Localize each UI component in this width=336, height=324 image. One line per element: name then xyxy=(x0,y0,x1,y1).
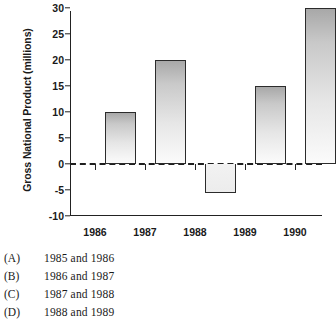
x-tick-mark xyxy=(145,164,146,170)
x-tick-label: 1987 xyxy=(133,226,156,238)
bar-1987 xyxy=(155,60,186,164)
y-tick-mark xyxy=(65,33,70,34)
x-tick-mark xyxy=(195,164,196,170)
answer-option[interactable]: (A)1985 and 1986 xyxy=(0,252,336,270)
y-tick-mark xyxy=(65,59,70,60)
answer-option[interactable]: (D)1988 and 1989 xyxy=(0,306,336,324)
x-axis-line xyxy=(70,215,322,216)
answer-letter: (B) xyxy=(0,270,44,282)
y-tick-label: 15 xyxy=(52,80,64,92)
answer-letter: (C) xyxy=(0,288,44,300)
y-tick-label: 25 xyxy=(52,28,64,40)
x-tick-label: 1986 xyxy=(83,226,106,238)
x-tick-label: 1990 xyxy=(283,226,306,238)
answer-option[interactable]: (C)1987 and 1988 xyxy=(0,288,336,306)
y-tick-label: 0 xyxy=(58,158,64,170)
answer-letter: (A) xyxy=(0,252,44,264)
y-tick-label: 5 xyxy=(58,132,64,144)
plot-area: 302520151050-5-10 19861987198819891990 xyxy=(70,8,320,216)
y-tick-mark xyxy=(65,189,70,190)
y-tick-mark xyxy=(65,137,70,138)
answer-text: 1986 and 1987 xyxy=(44,270,114,282)
y-tick-mark xyxy=(65,111,70,112)
x-tick-label: 1989 xyxy=(233,226,256,238)
bar-1989 xyxy=(255,86,286,164)
y-tick-mark xyxy=(65,85,70,86)
bar-1986 xyxy=(105,112,136,164)
answer-choices: (A)1985 and 1986(B)1986 and 1987(C)1987 … xyxy=(0,252,336,324)
answer-letter: (D) xyxy=(0,306,44,318)
y-tick-label: 10 xyxy=(52,106,64,118)
y-tick-label: 30 xyxy=(52,2,64,14)
y-axis-line xyxy=(70,11,71,216)
x-tick-mark xyxy=(295,164,296,170)
x-tick-mark xyxy=(245,164,246,170)
answer-option[interactable]: (B)1986 and 1987 xyxy=(0,270,336,288)
y-axis-title: Gross National Product (millions) xyxy=(21,5,33,215)
y-tick-mark xyxy=(65,215,70,216)
x-tick-label: 1988 xyxy=(183,226,206,238)
y-tick-label: -10 xyxy=(49,210,64,222)
bar-1990 xyxy=(305,8,336,164)
answer-text: 1988 and 1989 xyxy=(44,306,114,318)
answer-text: 1987 and 1988 xyxy=(44,288,114,300)
y-tick-mark xyxy=(65,7,70,8)
x-tick-mark xyxy=(95,164,96,170)
answer-text: 1985 and 1986 xyxy=(44,252,114,264)
gnp-bar-chart: Gross National Product (millions) 302520… xyxy=(0,0,336,250)
y-tick-label: 20 xyxy=(52,54,64,66)
bar-1988 xyxy=(205,164,236,193)
y-tick-label: -5 xyxy=(55,184,64,196)
